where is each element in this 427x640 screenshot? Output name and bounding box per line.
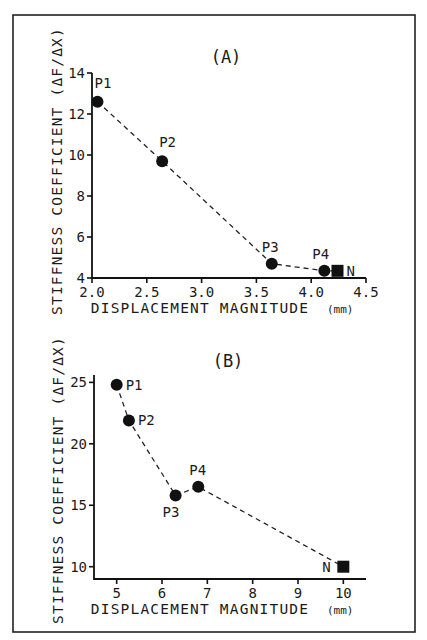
x-tick-label: 2.0 bbox=[79, 284, 104, 300]
x-tick-label: 8 bbox=[248, 585, 256, 601]
panel-b-x-axis-unit: (mm) bbox=[327, 604, 354, 617]
axis-lines bbox=[94, 375, 366, 579]
figure: (A) STIFFNESS COEFFICIENT (ΔF/ΔX) DISPLA… bbox=[0, 0, 427, 640]
panel-a-title: (A) bbox=[211, 47, 242, 67]
y-tick-label: 10 bbox=[70, 559, 87, 575]
marker-circle-p2 bbox=[156, 155, 168, 167]
marker-circle-p3 bbox=[170, 489, 182, 501]
panel-b-title: (B) bbox=[213, 351, 244, 371]
x-tick-label: 5 bbox=[112, 585, 120, 601]
figure-canvas: (A) STIFFNESS COEFFICIENT (ΔF/ΔX) DISPLA… bbox=[0, 0, 427, 640]
panel-b-x-axis-label: DISPLACEMENT MAGNITUDE bbox=[91, 601, 309, 617]
point-label-p2: P2 bbox=[138, 412, 155, 428]
marker-circle-p3 bbox=[266, 258, 278, 270]
x-tick-label: 3.0 bbox=[189, 284, 214, 300]
panel-a-x-axis-label: DISPLACEMENT MAGNITUDE bbox=[91, 300, 309, 316]
panel-b: (B) STIFFNESS COEFFICIENT (ΔF/ΔX) DISPLA… bbox=[50, 336, 366, 624]
panel-b-y-axis-label: STIFFNESS COEFFICIENT (ΔF/ΔX) bbox=[50, 336, 66, 624]
svg-text:STIFFNESS COEFFICIENT (ΔF/ΔX): STIFFNESS COEFFICIENT (ΔF/ΔX) bbox=[49, 27, 65, 315]
x-tick-label: 10 bbox=[335, 585, 352, 601]
marker-circle-p1 bbox=[111, 379, 123, 391]
marker-square-n bbox=[337, 561, 349, 573]
y-tick-label: 6 bbox=[77, 229, 85, 245]
panel-a-series: P1P2P3P4N bbox=[91, 75, 354, 279]
x-tick-label: 6 bbox=[158, 585, 166, 601]
point-label-p3: P3 bbox=[262, 239, 279, 255]
x-tick-label: 2.5 bbox=[134, 284, 159, 300]
panel-a-x-axis-unit: (mm) bbox=[327, 303, 354, 316]
y-tick-label: 14 bbox=[68, 65, 85, 81]
panel-b-series: P1P2P3P4N bbox=[111, 377, 350, 575]
point-label-p4: P4 bbox=[189, 462, 206, 478]
panel-b-axes bbox=[94, 375, 366, 579]
x-tick-label: 4.0 bbox=[299, 284, 324, 300]
x-tick-label: 9 bbox=[294, 585, 302, 601]
x-tick-label: 4.5 bbox=[353, 284, 378, 300]
panel-a-ticks: 2.02.53.03.54.04.5468101214 bbox=[68, 65, 379, 300]
panel-a-y-axis-label: STIFFNESS COEFFICIENT (ΔF/ΔX) bbox=[49, 27, 65, 315]
marker-circle-p1 bbox=[91, 96, 103, 108]
point-label-p4: P4 bbox=[312, 246, 329, 262]
x-tick-label: 7 bbox=[203, 585, 211, 601]
y-tick-label: 20 bbox=[70, 436, 87, 452]
series-line bbox=[97, 102, 337, 271]
svg-text:STIFFNESS COEFFICIENT (ΔF/ΔX): STIFFNESS COEFFICIENT (ΔF/ΔX) bbox=[50, 336, 66, 624]
point-label-p3: P3 bbox=[163, 504, 180, 520]
y-tick-label: 10 bbox=[68, 147, 85, 163]
point-label-p2: P2 bbox=[159, 134, 176, 150]
marker-circle-p4 bbox=[318, 265, 330, 277]
y-tick-label: 12 bbox=[68, 106, 85, 122]
point-label-n: N bbox=[347, 263, 355, 279]
y-tick-label: 4 bbox=[77, 270, 85, 286]
panel-b-ticks: 567891010152025 bbox=[70, 374, 352, 601]
marker-circle-p4 bbox=[192, 481, 204, 493]
marker-circle-p2 bbox=[123, 414, 135, 426]
point-label-n: N bbox=[322, 559, 330, 575]
marker-square-n bbox=[332, 265, 344, 277]
y-tick-label: 25 bbox=[70, 374, 87, 390]
x-tick-label: 3.5 bbox=[244, 284, 269, 300]
point-label-p1: P1 bbox=[94, 75, 111, 91]
y-tick-label: 15 bbox=[70, 497, 87, 513]
y-tick-label: 8 bbox=[77, 188, 85, 204]
point-label-p1: P1 bbox=[126, 377, 143, 393]
panel-a: (A) STIFFNESS COEFFICIENT (ΔF/ΔX) DISPLA… bbox=[49, 27, 379, 316]
